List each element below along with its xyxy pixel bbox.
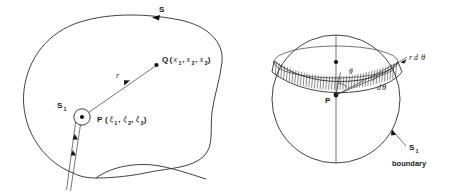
svg-text:S: S <box>409 143 415 152</box>
svg-text:): ) <box>144 115 147 124</box>
ray-p-to-band-vertical <box>336 73 341 96</box>
svg-text:2: 2 <box>192 60 195 66</box>
svg-text:,: , <box>131 115 133 124</box>
outer-boundary-curve <box>23 15 222 178</box>
svg-text:,: , <box>118 115 120 124</box>
arc-length-arrowhead <box>401 59 407 64</box>
boundary-arrowhead <box>391 130 396 136</box>
svg-text:(: ( <box>105 115 108 124</box>
label-radius-vector: r <box>116 71 120 80</box>
svg-text:θ: θ <box>382 82 386 92</box>
svg-text:ξ: ξ <box>136 114 140 124</box>
label-outer-surface: S <box>159 5 165 14</box>
label-point-p: P ( ξ 1 , ξ 2 , ξ 3 ) <box>97 114 147 126</box>
svg-text:1: 1 <box>63 106 66 112</box>
svg-text:r d: r d <box>409 53 419 62</box>
svg-text:1: 1 <box>114 120 117 126</box>
point-p-dot <box>80 115 84 119</box>
svg-text:,: , <box>182 55 184 64</box>
label-differential-angle: d θ <box>377 82 386 92</box>
slit-edge-right <box>71 125 81 192</box>
equator-center-dot <box>334 60 338 64</box>
band-cap-right <box>398 62 402 72</box>
svg-text:1: 1 <box>415 148 418 154</box>
svg-text:ξ: ξ <box>110 114 114 124</box>
scientific-figure: S S 1 r Q ( x 1 , x 2 , x 3 ) P ( ξ 1 , <box>0 0 451 194</box>
slit-edge-left <box>67 122 76 190</box>
svg-text:1: 1 <box>178 60 181 66</box>
label-point-p-sphere: P <box>325 96 331 105</box>
point-q-dot <box>154 63 158 67</box>
right-diagram-group: P r d θ θ d θ S 1 boundary <box>272 35 427 168</box>
svg-text:,: , <box>195 55 197 64</box>
svg-text:S: S <box>57 101 63 110</box>
label-boundary-word: boundary <box>392 159 427 168</box>
svg-text:θ: θ <box>421 52 425 62</box>
band-cap-left <box>272 61 274 72</box>
label-arc-length: r d θ <box>409 52 425 62</box>
svg-text:Q: Q <box>162 55 168 64</box>
svg-text:): ) <box>208 55 211 64</box>
radius-vector-line <box>89 66 156 113</box>
label-angle-theta: θ <box>349 67 353 76</box>
radius-vector-arrowhead <box>124 80 130 85</box>
svg-text:x: x <box>199 55 204 64</box>
svg-text:(: ( <box>170 55 173 64</box>
label-boundary-surface: S 1 <box>409 143 418 154</box>
label-point-q: Q ( x 1 , x 2 , x 3 ) <box>162 55 211 66</box>
svg-text:ξ: ξ <box>123 114 127 124</box>
svg-text:x: x <box>186 55 191 64</box>
label-cavity-surface: S 1 <box>57 101 66 112</box>
svg-text:x: x <box>173 55 178 64</box>
svg-text:P: P <box>97 115 103 124</box>
left-diagram-group: S S 1 r Q ( x 1 , x 2 , x 3 ) P ( ξ 1 , <box>23 5 222 191</box>
